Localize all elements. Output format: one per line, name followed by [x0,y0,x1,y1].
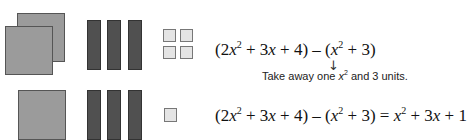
note-text: and 3 units. [348,70,408,82]
unit-tile [163,46,176,59]
unit-tile [163,29,176,42]
expr-text: + 3 [242,106,269,125]
expr-text: (2 [215,106,229,125]
unit-tile [180,29,193,42]
x-tile [107,20,121,70]
expr-var: x [229,106,237,125]
unit-tile [180,46,193,59]
expr-text: + 3 [406,106,433,125]
x-squared-tile [18,90,66,140]
expression-row2: (2x2 + 3x + 4) – (x2 + 3) = x2 + 3x + 1 [215,106,467,126]
x-tile [87,90,101,140]
x-tile [128,20,142,70]
expr-text: + 4) – ( [276,40,331,59]
x-squared-tile-front [5,26,53,75]
expr-text: + 3) = [343,106,393,125]
expr-text: + 3) [343,40,375,59]
x-tile [87,20,101,70]
note-text: Take away one [262,70,338,82]
expr-text: + 4) – ( [276,106,331,125]
expr-text: (2 [215,40,229,59]
expr-text: + 3 [242,40,269,59]
expr-var: x [229,40,237,59]
expr-var: x [268,106,276,125]
x-tile [128,90,142,140]
annotation-note: Take away one x2 and 3 units. [262,70,408,82]
expression-row1: (2x2 + 3x + 4) – (x2 + 3) [215,40,376,60]
expr-var: x [268,40,276,59]
x-tile [107,90,121,140]
unit-tile [164,108,177,122]
expr-text: + 1 [440,106,467,125]
